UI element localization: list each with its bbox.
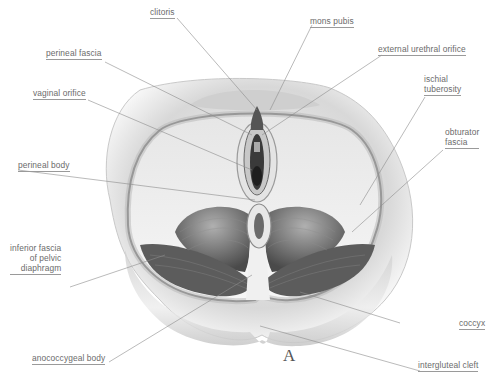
label-text: diaphragm bbox=[10, 263, 61, 275]
label-ischial-tuberosity: ischial tuberosity bbox=[424, 74, 461, 96]
label-vaginal-orifice: vaginal orifice bbox=[33, 88, 86, 100]
label-text: tuberosity bbox=[424, 84, 461, 96]
label-text: vaginal orifice bbox=[33, 88, 86, 100]
label-text: of pelvic bbox=[10, 253, 61, 263]
label-text: mons pubis bbox=[310, 16, 354, 28]
label-mons-pubis: mons pubis bbox=[310, 16, 354, 28]
label-text: ischial bbox=[424, 74, 461, 84]
label-text: inferior fascia bbox=[10, 243, 61, 253]
label-text: perineal body bbox=[18, 160, 70, 172]
panel-letter: A bbox=[283, 346, 295, 366]
label-coccyx: coccyx bbox=[459, 318, 485, 330]
label-text: anococcygeal body bbox=[32, 353, 105, 365]
label-text: perineal fascia bbox=[46, 48, 102, 60]
label-text: external urethral orifice bbox=[378, 44, 466, 56]
label-perineal-body: perineal body bbox=[18, 160, 70, 172]
label-text: clitoris bbox=[150, 7, 175, 19]
label-text: intergluteal cleft bbox=[418, 360, 478, 372]
label-perineal-fascia: perineal fascia bbox=[46, 48, 102, 60]
label-external-urethral-orifice: external urethral orifice bbox=[378, 44, 466, 56]
label-clitoris: clitoris bbox=[150, 7, 175, 19]
label-text: fascia bbox=[445, 137, 479, 149]
label-obturator-fascia: obturator fascia bbox=[445, 127, 479, 149]
label-intergluteal-cleft: intergluteal cleft bbox=[418, 360, 478, 372]
label-inferior-fascia-of-pelvic-diaphragm: inferior fascia of pelvic diaphragm bbox=[10, 243, 61, 275]
label-text: obturator bbox=[445, 127, 479, 137]
label-text: coccyx bbox=[459, 318, 485, 330]
label-anococcygeal-body: anococcygeal body bbox=[32, 353, 105, 365]
